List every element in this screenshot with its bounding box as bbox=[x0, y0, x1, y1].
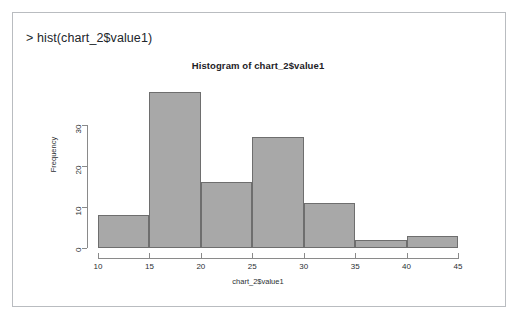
y-axis-tick-label: 20 bbox=[74, 166, 83, 182]
x-axis-tick bbox=[407, 253, 408, 259]
y-axis-line bbox=[87, 125, 88, 248]
x-axis-tick-label: 35 bbox=[343, 262, 367, 271]
x-axis-tick-label: 20 bbox=[189, 262, 213, 271]
y-axis-tick bbox=[82, 125, 87, 126]
y-axis-label: Frequency bbox=[49, 137, 58, 172]
histogram-bar bbox=[98, 215, 149, 248]
x-axis-label: chart_2$value1 bbox=[0, 277, 516, 286]
histogram-bar bbox=[252, 137, 303, 248]
x-axis-tick bbox=[201, 253, 202, 259]
y-axis-tick-label: 0 bbox=[74, 248, 83, 264]
histogram-bar bbox=[407, 236, 458, 248]
y-axis-tick bbox=[82, 166, 87, 167]
plot-data-area: 10152025303540450102030 bbox=[0, 0, 516, 321]
histogram-bar bbox=[304, 203, 355, 248]
x-axis-tick bbox=[304, 253, 305, 259]
x-axis-tick bbox=[98, 253, 99, 259]
histogram-plot: Histogram of chart_2$value1 101520253035… bbox=[0, 0, 516, 321]
x-axis-tick bbox=[252, 253, 253, 259]
x-axis-tick-label: 15 bbox=[137, 262, 161, 271]
x-axis-line bbox=[98, 258, 458, 259]
y-axis-tick bbox=[82, 207, 87, 208]
histogram-bar bbox=[201, 182, 252, 248]
x-axis-tick bbox=[458, 253, 459, 259]
x-axis-tick-label: 30 bbox=[292, 262, 316, 271]
screenshot-root: > hist(chart_2$value1) Histogram of char… bbox=[0, 0, 516, 321]
x-axis-tick-label: 10 bbox=[86, 262, 110, 271]
x-axis-tick bbox=[355, 253, 356, 259]
y-axis-tick-label: 10 bbox=[74, 207, 83, 223]
histogram-bar bbox=[355, 240, 406, 248]
x-axis-tick-label: 45 bbox=[446, 262, 470, 271]
x-axis-tick-label: 25 bbox=[240, 262, 264, 271]
histogram-bar bbox=[149, 92, 200, 248]
y-axis-tick bbox=[82, 248, 87, 249]
x-axis-tick-label: 40 bbox=[395, 262, 419, 271]
y-axis-tick-label: 30 bbox=[74, 125, 83, 141]
x-axis-tick bbox=[149, 253, 150, 259]
